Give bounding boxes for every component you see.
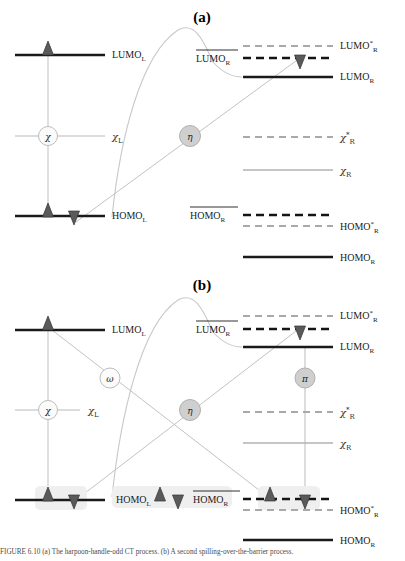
chi-node-a-symbol: χ bbox=[44, 132, 51, 142]
energy-level-diagram: (a) LUMOL χL HOMOL χ η LUM bbox=[0, 0, 405, 561]
eta-node-b-symbol: η bbox=[187, 406, 193, 416]
pi-node-b-symbol: π bbox=[301, 374, 309, 384]
omega-node-b-symbol: ω bbox=[106, 374, 114, 384]
panel-a-label: (a) bbox=[193, 9, 211, 26]
figure-container: (a) LUMOL χL HOMOL χ η LUM bbox=[0, 0, 405, 561]
figure-caption: FIGURE 6.10 (a) The harpoon-handle-odd C… bbox=[0, 548, 405, 556]
eta-node-a-symbol: η bbox=[187, 132, 193, 142]
chi-node-b-symbol: χ bbox=[44, 406, 51, 416]
panel-b-label: (b) bbox=[193, 277, 211, 294]
highlight-homo-l-b bbox=[35, 486, 87, 510]
